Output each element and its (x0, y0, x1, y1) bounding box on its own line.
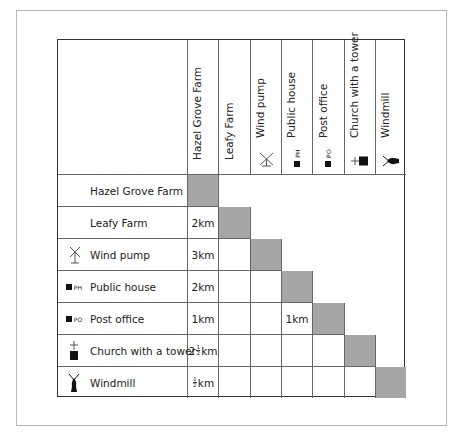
column-header-label: Leafy Farm (223, 103, 235, 161)
column-header-hazel-grove-farm: Hazel Grove Farm (188, 40, 219, 175)
distance-cell: 1km (282, 303, 313, 335)
row-header-label: Hazel Grove Farm (90, 175, 183, 206)
row-header-label: Wind pump (90, 239, 150, 270)
column-header-label: Post office (317, 84, 329, 138)
column-header-label: Hazel Grove Farm (191, 67, 203, 160)
distance-table: Hazel Grove Farm Leafy Farm Wind pump Pu… (57, 39, 405, 397)
distance-value: 212km (188, 335, 218, 366)
row-header-church-with-tower: Church with a tower (58, 335, 188, 367)
distance-cell: 2km (188, 271, 219, 303)
distance-value: 3km (188, 239, 218, 270)
distance-value: 1km (188, 303, 218, 334)
row-header-label: Post office (90, 303, 144, 334)
column-header-post-office: Post office PO (313, 40, 345, 175)
distance-cell (219, 367, 251, 398)
row-header-public-house: PH Public house (58, 271, 188, 303)
distance-cell (219, 239, 251, 271)
column-header-label: Public house (285, 72, 297, 138)
empty-region (219, 175, 406, 207)
diagonal-cell (376, 367, 406, 398)
distance-cell (251, 367, 282, 398)
church-with-tower-icon (68, 340, 80, 362)
distance-cell: 3km (188, 239, 219, 271)
wind-pump-icon (258, 150, 275, 168)
church-with-tower-icon (350, 154, 370, 168)
wind-pump-icon (68, 245, 82, 265)
public-house-icon: PH (291, 148, 303, 168)
diagonal-cell (251, 239, 282, 271)
column-header-leafy-farm: Leafy Farm (219, 40, 251, 175)
column-header-wind-pump: Wind pump (251, 40, 282, 175)
distance-cell (313, 367, 345, 398)
distance-cell (219, 335, 251, 367)
diagonal-cell (313, 303, 345, 335)
distance-cell (251, 271, 282, 303)
distance-cell (282, 367, 313, 398)
distance-cell (251, 335, 282, 367)
diagonal-cell (188, 175, 219, 207)
post-office-icon: PO (322, 148, 334, 168)
distance-cell (345, 367, 376, 398)
distance-cell (282, 335, 313, 367)
distance-value: 1km (282, 303, 312, 334)
header-corner (58, 40, 188, 175)
row-header-wind-pump: Wind pump (58, 239, 188, 271)
row-header-label: Leafy Farm (90, 207, 148, 238)
column-header-public-house: Public house PH (282, 40, 313, 175)
row-header-label: Windmill (90, 367, 135, 398)
row-header-label: Church with a tower (90, 335, 196, 366)
distance-cell (313, 335, 345, 367)
windmill-icon (381, 154, 401, 168)
fraction: 12 (193, 377, 197, 389)
distance-value: 12km (188, 367, 218, 398)
row-header-post-office: PO Post office (58, 303, 188, 335)
column-header-label: Wind pump (254, 78, 266, 138)
diagonal-cell (345, 335, 376, 367)
fraction: 12 (196, 345, 200, 357)
windmill-icon (67, 373, 81, 393)
diagonal-cell (219, 207, 251, 239)
distance-cell: 2km (188, 207, 219, 239)
post-office-icon: PO (61, 314, 87, 324)
public-house-icon: PH (61, 282, 87, 292)
row-header-leafy-farm: Leafy Farm (58, 207, 188, 239)
column-header-windmill: Windmill (376, 40, 406, 175)
row-header-hazel-grove-farm: Hazel Grove Farm (58, 175, 188, 207)
column-header-church-with-tower: Church with a tower (345, 40, 376, 175)
distance-cell (219, 303, 251, 335)
row-header-label: Public house (90, 271, 156, 302)
distance-cell: 12km (188, 367, 219, 398)
distance-cell: 212km (188, 335, 219, 367)
distance-cell (251, 303, 282, 335)
distance-value: 2km (188, 271, 218, 302)
column-header-label: Windmill (379, 93, 391, 138)
distance-value: 2km (188, 207, 218, 238)
diagonal-cell (282, 271, 313, 303)
distance-cell: 1km (188, 303, 219, 335)
distance-cell (219, 271, 251, 303)
row-header-windmill: Windmill (58, 367, 188, 398)
column-header-label: Church with a tower (348, 32, 360, 138)
